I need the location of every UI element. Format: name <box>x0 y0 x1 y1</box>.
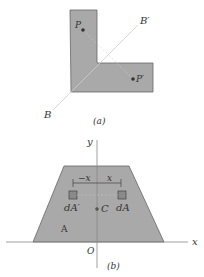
label-y-axis: y <box>86 136 93 147</box>
figure-a: P P′ B B′ (a) <box>43 10 153 126</box>
label-b-prime: B′ <box>139 15 150 26</box>
label-x-dim: x <box>107 173 112 183</box>
label-area: A <box>60 224 68 234</box>
figure-b: y x O −x x dA′ dA C A (b) <box>6 136 198 271</box>
element-da-prime <box>69 191 77 199</box>
label-centroid: C <box>101 203 109 214</box>
diagram-canvas: P P′ B B′ (a) y x O −x x dA′ dA C A (b) <box>0 0 204 277</box>
label-x-axis: x <box>192 236 198 247</box>
label-da-prime: dA′ <box>64 202 81 213</box>
label-p-prime: P′ <box>135 74 144 84</box>
point-p-prime <box>131 77 135 81</box>
centroid-point <box>95 207 99 211</box>
caption-a: (a) <box>93 116 106 126</box>
label-da: dA <box>116 202 130 213</box>
trapezoid-area <box>33 166 164 242</box>
point-p <box>81 28 85 32</box>
caption-b: (b) <box>107 261 120 271</box>
label-origin: O <box>87 246 95 256</box>
label-b: B <box>43 109 51 120</box>
label-neg-x: −x <box>78 173 91 183</box>
label-p: P <box>74 20 82 30</box>
element-da <box>118 191 126 199</box>
